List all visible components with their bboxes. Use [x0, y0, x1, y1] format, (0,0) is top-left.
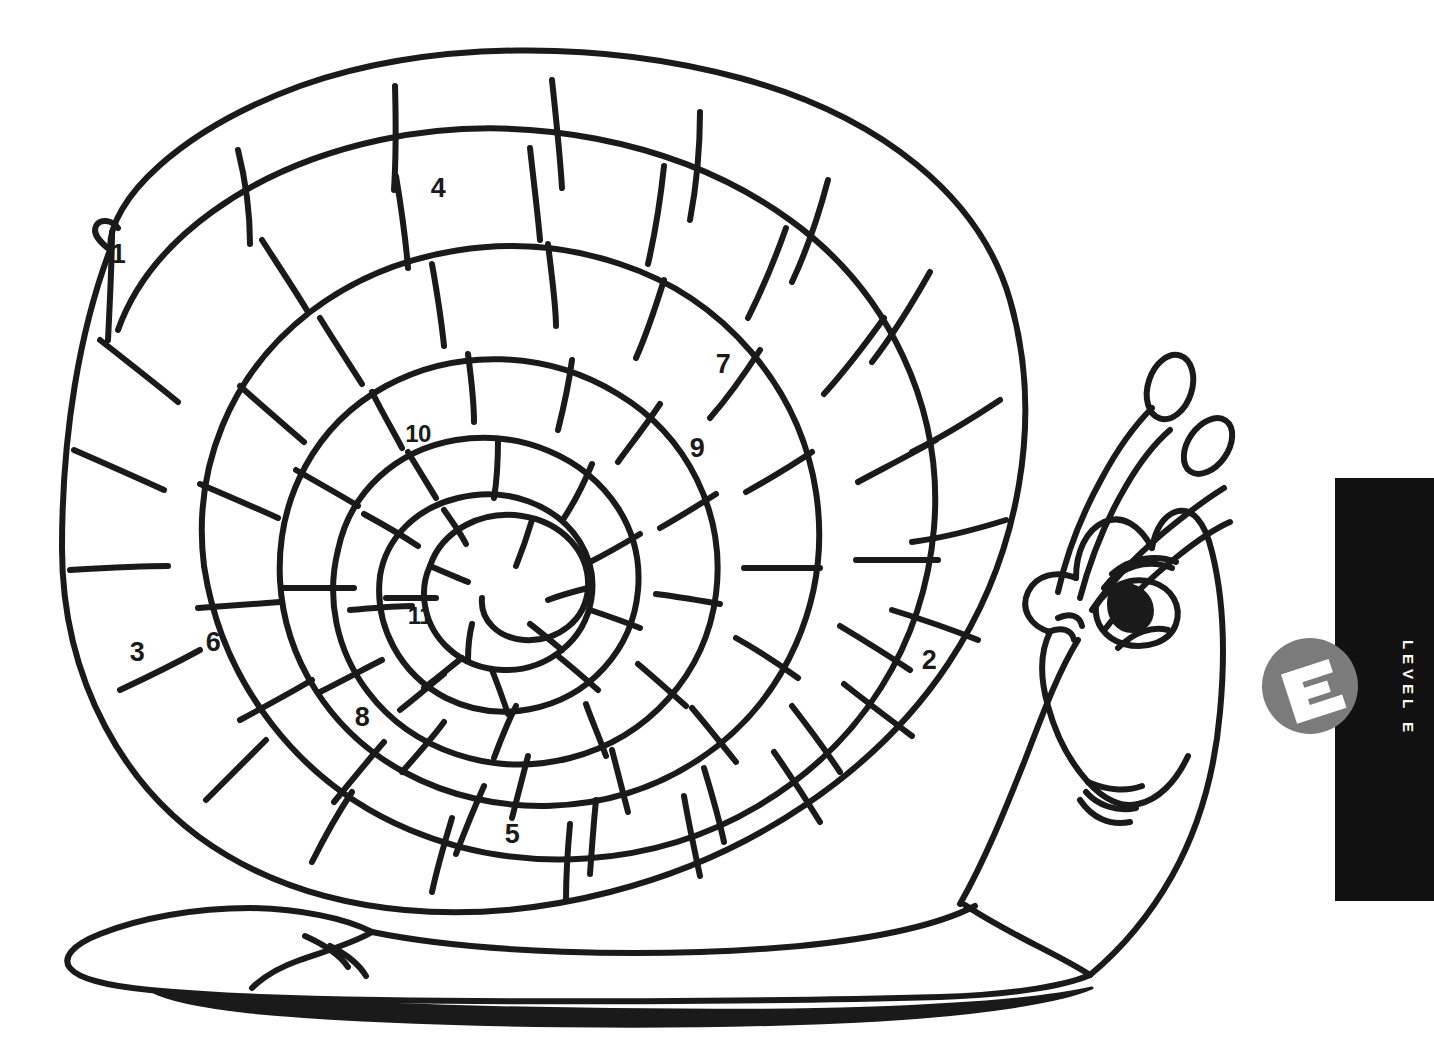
shell-number-7: 7: [716, 351, 731, 378]
shell-number-8: 8: [355, 704, 370, 731]
shell-number-4: 4: [431, 175, 446, 202]
coloring-page: 1 4 7 10 9 11 3 6 2 8 5 LEVEL E: [0, 0, 1434, 1064]
badge-letter-e-icon: [1262, 638, 1358, 734]
shell-number-6: 6: [206, 629, 221, 656]
shell-number-3: 3: [130, 639, 145, 666]
snail-line-art: [0, 0, 1434, 1064]
shell-number-5: 5: [505, 821, 520, 848]
level-badge: [1262, 638, 1358, 734]
shell-number-9: 9: [690, 435, 705, 462]
shell-number-11: 11: [408, 604, 432, 628]
level-tab-label: LEVEL E: [1400, 629, 1417, 749]
shell-number-1: 1: [111, 241, 126, 268]
shell-number-2: 2: [922, 647, 937, 674]
shell-number-10: 10: [405, 422, 431, 446]
